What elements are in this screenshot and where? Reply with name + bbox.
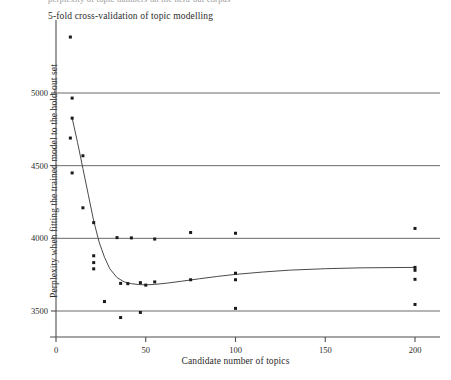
- y-tick-label-5000: 5000: [16, 88, 48, 98]
- tick-marks-group: [51, 93, 415, 342]
- data-point: [234, 307, 237, 310]
- data-point: [71, 117, 74, 120]
- data-point: [92, 261, 95, 264]
- data-point: [414, 303, 417, 306]
- axes-group: [50, 20, 440, 337]
- data-point: [130, 236, 133, 239]
- scatter-points-group: [69, 36, 417, 319]
- data-point: [126, 282, 129, 285]
- data-point: [144, 284, 147, 287]
- fitted-curve: [72, 118, 415, 285]
- data-point: [153, 280, 156, 283]
- data-point: [234, 272, 237, 275]
- data-point: [119, 282, 122, 285]
- data-point: [414, 269, 417, 272]
- data-point: [103, 300, 106, 303]
- data-point: [69, 36, 72, 39]
- data-point: [139, 281, 142, 284]
- data-point: [92, 267, 95, 270]
- x-tick-label-100: 100: [229, 345, 242, 355]
- y-tick-label-3500: 3500: [16, 306, 48, 316]
- data-point: [139, 311, 142, 314]
- data-point: [414, 266, 417, 269]
- data-point: [414, 278, 417, 281]
- figure-panel: perplexity of topic numbers on the held-…: [0, 0, 451, 380]
- y-tick-label-4000: 4000: [16, 233, 48, 243]
- data-point: [234, 278, 237, 281]
- data-point: [234, 232, 237, 235]
- data-point: [71, 97, 74, 100]
- data-point: [71, 171, 74, 174]
- data-point: [81, 206, 84, 209]
- plot-area: [0, 0, 451, 380]
- y-tick-label-4500: 4500: [16, 161, 48, 171]
- data-point: [119, 316, 122, 319]
- data-point: [92, 221, 95, 224]
- x-tick-label-50: 50: [142, 345, 151, 355]
- data-point: [189, 278, 192, 281]
- data-point: [189, 231, 192, 234]
- data-point: [92, 254, 95, 257]
- data-point: [153, 238, 156, 241]
- data-point: [414, 227, 417, 230]
- x-tick-label-150: 150: [319, 345, 332, 355]
- data-point: [81, 154, 84, 157]
- data-point: [116, 236, 119, 239]
- x-tick-label-0: 0: [54, 345, 58, 355]
- loess-curve-path: [72, 118, 415, 285]
- x-tick-label-200: 200: [409, 345, 422, 355]
- gridlines-group: [56, 93, 440, 311]
- data-point: [69, 137, 72, 140]
